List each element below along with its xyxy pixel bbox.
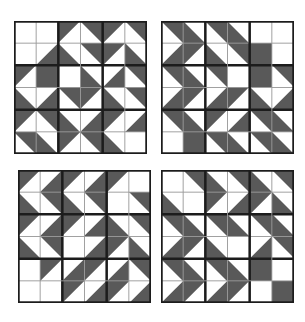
quilt-cell-r3-c3 bbox=[58, 65, 80, 87]
quilt-cell-r4-c2 bbox=[40, 236, 62, 258]
quilt-cell-r6-c1 bbox=[14, 132, 36, 154]
quilt-cell-r3-c2 bbox=[183, 65, 205, 87]
quilt-cell-r2-c1 bbox=[161, 192, 183, 214]
quilt-cell-r1-c5 bbox=[250, 21, 272, 43]
quilt-cell-r1-c1 bbox=[18, 170, 40, 192]
quilt-cell-r3-c3 bbox=[62, 214, 84, 236]
block-bottom-left bbox=[18, 170, 151, 303]
quilt-cell-r4-c3 bbox=[205, 236, 227, 258]
quilt-cell-r5-c5 bbox=[250, 110, 272, 132]
quilt-cell-r2-c3 bbox=[62, 192, 84, 214]
quilt-cell-r4-c4 bbox=[227, 87, 249, 109]
quilt-cell-r3-c5 bbox=[250, 214, 272, 236]
quilt-cell-r4-c4 bbox=[84, 236, 106, 258]
quilt-cell-r4-c6 bbox=[272, 87, 294, 109]
quilt-cell-r6-c4 bbox=[227, 132, 249, 154]
quilt-cell-r4-c3 bbox=[62, 236, 84, 258]
quilt-cell-r3-c5 bbox=[250, 65, 272, 87]
quilt-cell-r2-c5 bbox=[103, 43, 125, 65]
quilt-cell-r4-c4 bbox=[80, 87, 102, 109]
quilt-cell-r6-c2 bbox=[36, 132, 58, 154]
quilt-cell-r1-c3 bbox=[205, 170, 227, 192]
quilt-cell-r1-c3 bbox=[205, 21, 227, 43]
quilt-cell-r5-c1 bbox=[14, 110, 36, 132]
quilt-cell-r1-c2 bbox=[40, 170, 62, 192]
quilt-cell-r3-c3 bbox=[205, 65, 227, 87]
block-bottom-right bbox=[161, 170, 294, 303]
quilt-cell-r1-c2 bbox=[183, 21, 205, 43]
quilt-cell-r1-c3 bbox=[62, 170, 84, 192]
block-top-right bbox=[161, 21, 294, 154]
quilt-cell-r4-c6 bbox=[125, 87, 147, 109]
quilt-grid bbox=[14, 21, 147, 154]
quilt-cell-r1-c4 bbox=[84, 170, 106, 192]
quilt-cell-r4-c1 bbox=[18, 236, 40, 258]
quilt-cell-r1-c3 bbox=[58, 21, 80, 43]
quilt-cell-r3-c4 bbox=[84, 214, 106, 236]
quilt-cell-r3-c5 bbox=[107, 214, 129, 236]
quilt-cell-r6-c3 bbox=[58, 132, 80, 154]
quilt-cell-r3-c4 bbox=[227, 65, 249, 87]
quilt-cell-r5-c6 bbox=[129, 259, 151, 281]
quilt-cell-r4-c5 bbox=[107, 236, 129, 258]
quilt-cell-r1-c6 bbox=[272, 170, 294, 192]
quilt-cell-r3-c6 bbox=[272, 65, 294, 87]
quilt-cell-r2-c6 bbox=[272, 43, 294, 65]
quilt-cell-r3-c2 bbox=[36, 65, 58, 87]
quilt-cell-r4-c1 bbox=[161, 87, 183, 109]
quilt-grid bbox=[18, 170, 151, 303]
quilt-cell-r1-c5 bbox=[107, 170, 129, 192]
quilt-cell-r4-c2 bbox=[36, 87, 58, 109]
quilt-cell-r6-c3 bbox=[205, 281, 227, 303]
quilt-cell-r1-c2 bbox=[36, 21, 58, 43]
quilt-cell-r6-c4 bbox=[227, 281, 249, 303]
quilt-cell-r5-c1 bbox=[161, 110, 183, 132]
quilt-cell-r3-c2 bbox=[183, 214, 205, 236]
quilt-cell-r4-c1 bbox=[14, 87, 36, 109]
quilt-cell-r6-c1 bbox=[161, 281, 183, 303]
quilt-cell-r4-c2 bbox=[183, 236, 205, 258]
quilt-cell-r3-c1 bbox=[14, 65, 36, 87]
quilt-cell-r6-c6 bbox=[125, 132, 147, 154]
quilt-cell-r2-c1 bbox=[14, 43, 36, 65]
quilt-cell-r6-c5 bbox=[103, 132, 125, 154]
quilt-cell-r5-c5 bbox=[103, 110, 125, 132]
quilt-cell-r3-c4 bbox=[227, 214, 249, 236]
quilt-cell-r4-c5 bbox=[250, 236, 272, 258]
quilt-cell-r2-c3 bbox=[58, 43, 80, 65]
quilt-cell-r1-c2 bbox=[183, 170, 205, 192]
quilt-cell-r6-c1 bbox=[18, 281, 40, 303]
quilt-cell-r2-c3 bbox=[205, 192, 227, 214]
quilt-cell-r3-c1 bbox=[161, 214, 183, 236]
quilt-cell-r3-c1 bbox=[18, 214, 40, 236]
quilt-cell-r5-c4 bbox=[227, 259, 249, 281]
quilt-cell-r6-c2 bbox=[183, 281, 205, 303]
quilt-cell-r2-c1 bbox=[18, 192, 40, 214]
quilt-cell-r1-c1 bbox=[161, 21, 183, 43]
quilt-cell-r4-c1 bbox=[161, 236, 183, 258]
quilt-cell-r3-c2 bbox=[40, 214, 62, 236]
quilt-cell-r5-c5 bbox=[250, 259, 272, 281]
quilt-cell-r1-c1 bbox=[161, 170, 183, 192]
quilt-cell-r2-c3 bbox=[205, 43, 227, 65]
quilt-cell-r6-c5 bbox=[250, 132, 272, 154]
quilt-cell-r6-c5 bbox=[107, 281, 129, 303]
quilt-cell-r2-c5 bbox=[250, 192, 272, 214]
quilt-cell-r5-c4 bbox=[227, 110, 249, 132]
quilt-cell-r2-c2 bbox=[183, 192, 205, 214]
quilt-cell-r2-c6 bbox=[129, 192, 151, 214]
quilt-cell-r5-c2 bbox=[183, 110, 205, 132]
quilt-cell-r4-c3 bbox=[58, 87, 80, 109]
quilt-cell-r4-c5 bbox=[250, 87, 272, 109]
quilt-cell-r2-c4 bbox=[227, 192, 249, 214]
quilt-cell-r2-c4 bbox=[80, 43, 102, 65]
quilt-cell-r2-c6 bbox=[272, 192, 294, 214]
quilt-cell-r3-c5 bbox=[103, 65, 125, 87]
quilt-cell-r2-c5 bbox=[250, 43, 272, 65]
quilt-cell-r1-c4 bbox=[227, 21, 249, 43]
quilt-cell-r2-c2 bbox=[40, 192, 62, 214]
quilt-cell-r5-c6 bbox=[272, 259, 294, 281]
quilt-cell-r6-c2 bbox=[40, 281, 62, 303]
quilt-cell-r5-c5 bbox=[107, 259, 129, 281]
quilt-cell-r1-c4 bbox=[227, 170, 249, 192]
